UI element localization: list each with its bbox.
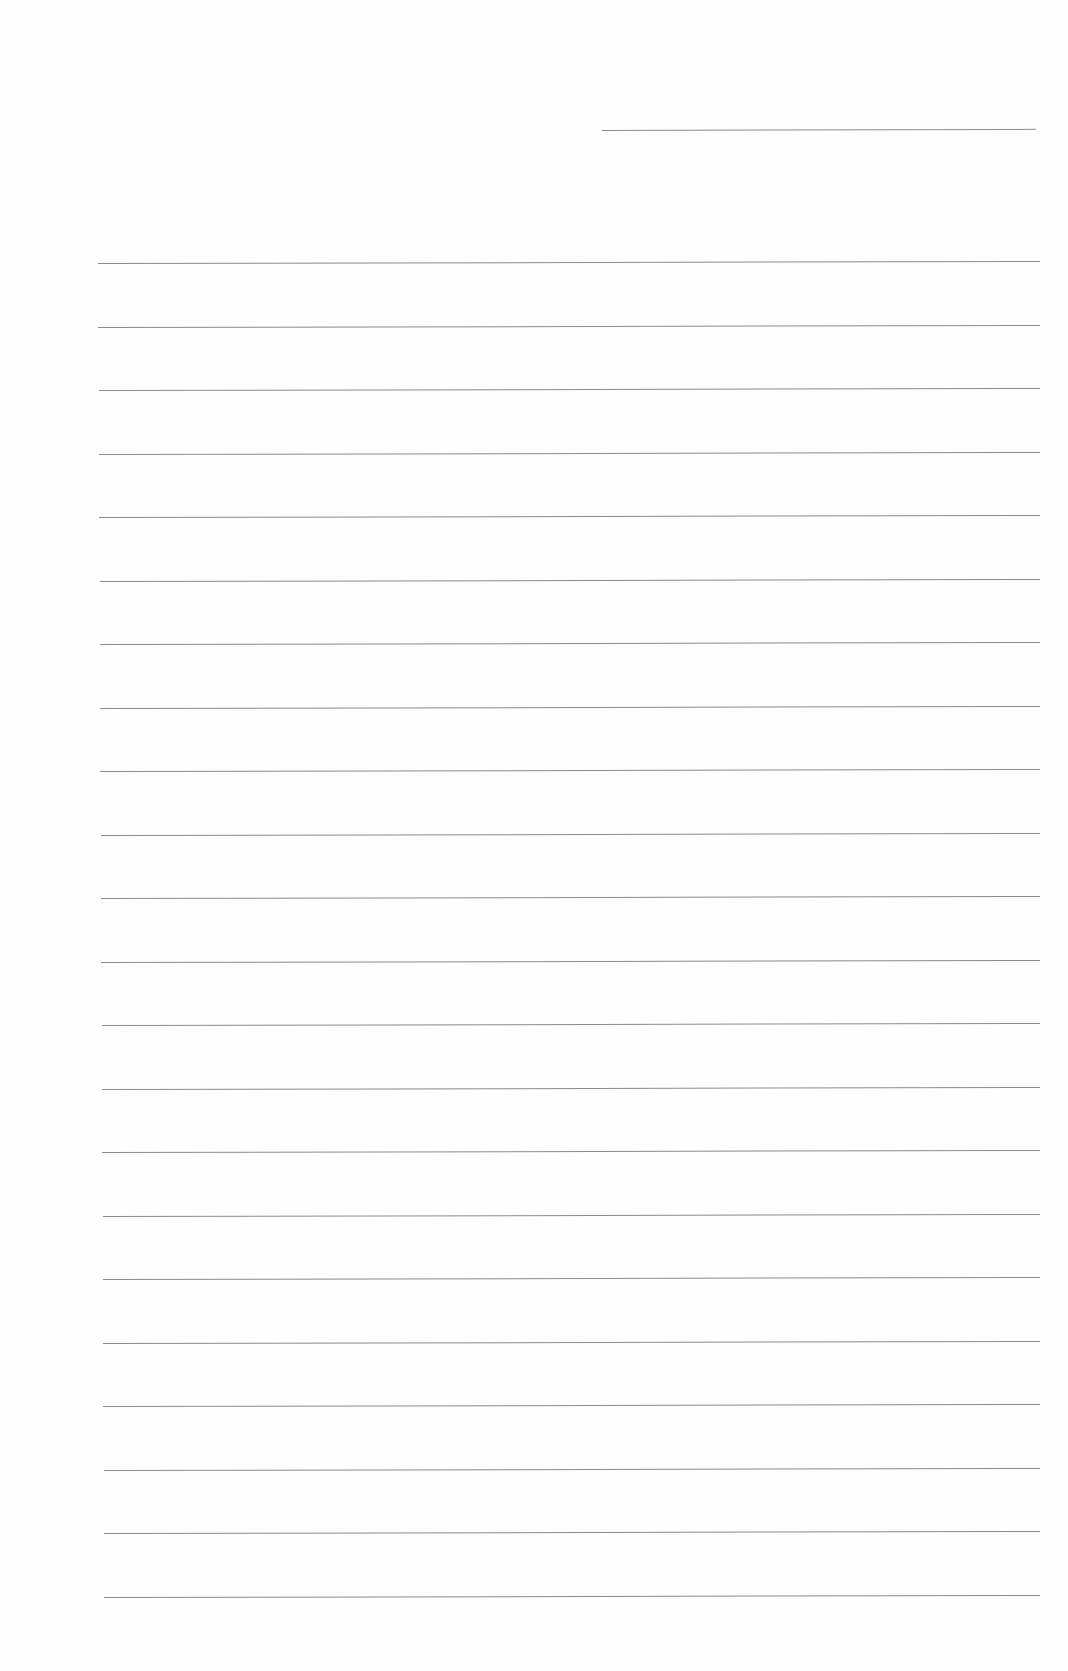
ruled-line — [103, 1214, 1040, 1217]
ruled-line — [99, 452, 1040, 455]
ruled-line — [100, 706, 1040, 709]
ruled-line — [99, 388, 1040, 391]
ruled-line — [100, 769, 1040, 772]
ruled-line — [100, 642, 1040, 645]
ruled-line — [104, 1595, 1040, 1598]
ruled-line — [102, 1023, 1040, 1026]
ruled-line — [102, 1087, 1040, 1090]
ruled-line — [104, 1468, 1040, 1471]
ruled-line — [102, 1150, 1040, 1153]
ruled-line — [98, 325, 1040, 328]
ruled-line — [104, 1531, 1040, 1534]
ruled-line — [103, 1404, 1040, 1407]
ruled-line — [103, 1277, 1040, 1280]
ruled-line — [101, 833, 1040, 836]
lined-paper-page — [0, 0, 1068, 1671]
ruled-line — [101, 960, 1040, 963]
ruled-line — [100, 579, 1040, 582]
ruled-line — [101, 896, 1040, 899]
ruled-line — [98, 261, 1040, 264]
header-rule-line — [602, 129, 1036, 131]
ruled-line — [103, 1341, 1040, 1344]
ruled-line — [99, 515, 1040, 518]
